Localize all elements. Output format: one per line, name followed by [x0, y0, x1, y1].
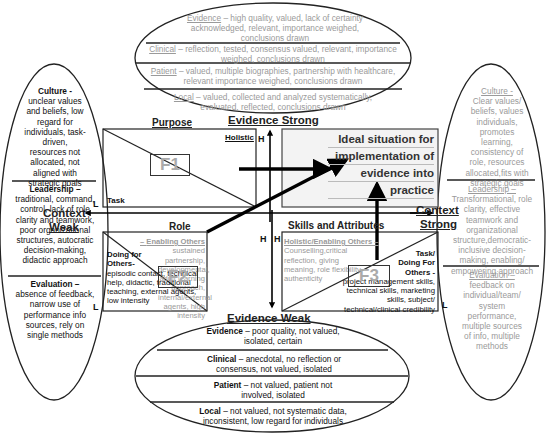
right-culture-label: Culture - — [465, 86, 529, 96]
f1-h-marker: H — [258, 134, 265, 144]
bottom-clinical-label: Clinical — [207, 354, 237, 364]
f1-title: Purpose — [152, 118, 192, 128]
bottom-patient-label: Patient — [214, 380, 242, 390]
bottom-evidence-text: Evidence – poor quality, not valued, iso… — [190, 326, 356, 346]
f3-box: F3 — [348, 265, 390, 287]
top-clinical-text: Clinical – reflection, tested, consensus… — [142, 44, 404, 64]
left-leadership-label: Leadership – — [12, 184, 98, 194]
right-leadership-label: Leadership – — [450, 184, 534, 194]
right-evaluation-text: Evaluation –feedback on individual/team/… — [458, 270, 526, 352]
ideal-line-1: Ideal situation for — [328, 131, 434, 148]
f2-box: F2 — [158, 266, 198, 288]
top-clinical-desc: – reflection, tested, consensus valued, … — [176, 44, 397, 64]
f1-holistic-label: Holistic — [225, 133, 254, 143]
right-evaluation-desc: feedback on individual/team/ system perf… — [458, 280, 526, 351]
left-culture-desc: unclear values and beliefs, low regard f… — [24, 96, 86, 188]
f2-enabling-label: Enabling Others – — [158, 237, 205, 246]
top-patient-text: Patient – valued, multiple biographies, … — [140, 66, 406, 86]
evidence-strong-label: Evidence Strong — [228, 115, 319, 125]
top-local-desc: – valued, collected and analyzed systema… — [194, 92, 372, 112]
top-local-text: Local – valued, collected and analyzed s… — [170, 92, 376, 112]
left-evaluation-desc: absence of feedback, narrow use of perfo… — [14, 289, 96, 340]
f1-task-label: Task — [107, 196, 125, 206]
f1-box: F1 — [150, 154, 190, 176]
bottom-evidence-label: Evidence — [206, 326, 242, 336]
f2-doing-label: Doing for Others- — [107, 250, 151, 269]
top-evidence-label: Evidence — [187, 13, 221, 23]
context-weak-label-1: Context — [43, 208, 86, 218]
f2-l-marker: L — [93, 302, 99, 312]
left-evaluation-label: Evaluation – — [14, 279, 96, 289]
top-clinical-label: Clinical — [149, 44, 176, 54]
ideal-line-2: implementation of — [328, 148, 434, 165]
ideal-line-3: evidence into — [328, 165, 434, 182]
right-evaluation-label: Evaluation – — [458, 270, 526, 280]
right-leadership-text: Leadership –Transformational, role clari… — [450, 184, 534, 276]
f3-h-marker: H — [274, 234, 281, 244]
right-leadership-desc: Transformational, role clarity, effectiv… — [450, 194, 534, 276]
top-patient-label: Patient — [151, 66, 177, 76]
f3-holistic-label: Holistic/Enabling Others – — [284, 237, 366, 246]
top-evidence-text: Evidence – high quality, valued, lack of… — [180, 13, 370, 44]
right-culture-desc: Clear values/ beliefs, values individual… — [465, 96, 529, 188]
bottom-evidence-desc: – poor quality, not valued, isolated, ce… — [243, 326, 340, 346]
top-local-label: Local — [174, 92, 194, 102]
context-weak-label-2: Weak — [49, 222, 79, 232]
left-evaluation-text: Evaluation –absence of feedback, narrow … — [14, 279, 96, 340]
bottom-local-text: Local – not valued, not systematic data,… — [180, 406, 366, 426]
f1-l-marker: L — [93, 199, 99, 209]
ideal-situation-text: Ideal situation for implementation of ev… — [328, 131, 434, 199]
bottom-clinical-text: Clinical – anecdotal, no reflection or c… — [186, 354, 362, 374]
top-patient-desc: – valued, multiple biographies, partners… — [177, 66, 396, 86]
ideal-line-4: practice — [328, 182, 434, 199]
bottom-patient-desc: – not valued, patient not involved, isol… — [241, 380, 332, 400]
right-culture-text: Culture -Clear values/ beliefs, values i… — [465, 86, 529, 188]
f3-title: Skills and Attributes — [288, 221, 384, 231]
bottom-local-desc: – not valued, not systematic data, incon… — [203, 406, 347, 426]
f2-h-marker: H — [260, 234, 267, 244]
f3-task-label: Task/ Doing For Others - — [397, 249, 435, 277]
bottom-local-label: Local — [199, 406, 221, 416]
context-strong-label-2: Strong — [420, 219, 457, 229]
f3-l-marker: L — [442, 300, 448, 310]
context-strong-label-1: Context — [416, 205, 459, 215]
f2-title: Role — [169, 222, 191, 232]
evidence-weak-label: Evidence Weak — [227, 313, 311, 323]
left-culture-text: Culture -unclear values and beliefs, low… — [24, 86, 86, 188]
left-culture-label: Culture - — [24, 86, 86, 96]
bottom-patient-text: Patient – not valued, patient not involv… — [200, 380, 346, 400]
